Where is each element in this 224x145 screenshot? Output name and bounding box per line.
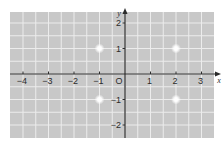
- point-marker: [95, 44, 105, 54]
- y-axis-label: y: [116, 9, 121, 18]
- point-marker: [95, 95, 105, 105]
- x-tick-label: 3: [198, 76, 203, 86]
- x-tick-label: 1: [147, 76, 152, 86]
- x-tick-label: −4: [17, 76, 27, 86]
- y-axis-arrow-icon: [123, 8, 128, 14]
- coordinate-plane: −4−3−2−112321−1−2Oxy: [0, 0, 224, 145]
- y-tick-label: 2: [116, 18, 121, 28]
- y-tick-label: −2: [111, 120, 121, 130]
- x-tick-label: 2: [172, 76, 177, 86]
- x-tick-label: −3: [42, 76, 52, 86]
- x-axis-label: x: [216, 76, 221, 85]
- x-tick-label: −2: [68, 76, 78, 86]
- point-marker: [171, 44, 181, 54]
- y-tick-label: −1: [111, 95, 121, 105]
- origin-label: O: [115, 76, 122, 86]
- point-marker: [171, 95, 181, 105]
- y-tick-label: 1: [116, 44, 121, 54]
- x-tick-label: −1: [93, 76, 103, 86]
